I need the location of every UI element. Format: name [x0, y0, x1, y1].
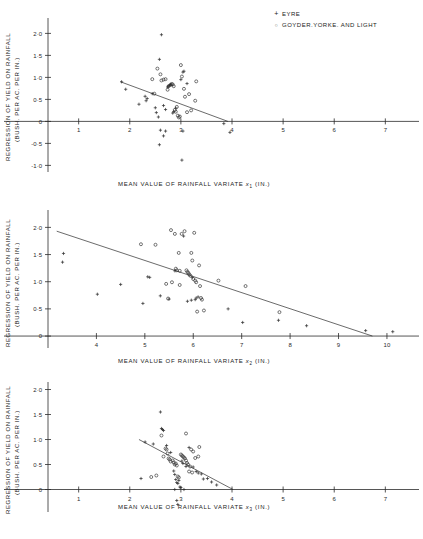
y-axis-label-3-units: (BUSH. PER AC. PER IN.)	[13, 402, 21, 504]
series-eyre-points	[139, 410, 218, 506]
svg-text:7: 7	[384, 127, 388, 133]
svg-text:1·0: 1·0	[33, 75, 42, 81]
svg-text:2·0: 2·0	[33, 225, 42, 231]
svg-text:1·0: 1·0	[33, 437, 42, 443]
svg-text:-1·0: -1·0	[31, 163, 42, 169]
svg-text:2·0: 2·0	[33, 31, 42, 37]
series-goyder-points	[151, 64, 198, 119]
svg-text:3: 3	[179, 496, 183, 502]
svg-text:6: 6	[333, 496, 337, 502]
svg-text:2·0: 2·0	[33, 387, 42, 393]
series-eyre-points	[120, 33, 232, 162]
series-goyder-points	[150, 432, 201, 479]
svg-text:5: 5	[281, 127, 285, 133]
svg-text:1: 1	[77, 127, 81, 133]
series-goyder-points	[139, 229, 280, 314]
x-axis-label-2: MEAN VALUE OF RAINFALL VARIATE x2 (IN.)	[118, 358, 270, 366]
scatter-plot-1: 1234567-1·0-0·500·51·01·52·0	[0, 0, 423, 196]
scatter-plot-3: 123456700·51·01·52·0	[0, 372, 423, 539]
svg-text:5: 5	[281, 496, 285, 502]
svg-text:1·5: 1·5	[33, 252, 42, 258]
svg-text:10: 10	[384, 342, 391, 348]
panel-3: 123456700·51·01·52·0 REGRESSION OF YIELD…	[0, 372, 423, 539]
svg-text:8: 8	[288, 342, 292, 348]
svg-text:9: 9	[337, 342, 341, 348]
svg-text:4: 4	[230, 496, 234, 502]
figure-container: + EYRE ○ GOYDER.YORKE. AND LIGHT 1234567…	[0, 0, 423, 539]
svg-text:1·0: 1·0	[33, 279, 42, 285]
svg-text:5: 5	[143, 342, 147, 348]
x-axis-label-3: MEAN VALUE OF RAINFALL VARIATE x3 (IN.)	[118, 504, 270, 512]
y-axis-label-1: REGRESSION OF YIELD ON RAINFALL	[4, 22, 12, 172]
svg-text:4: 4	[95, 342, 99, 348]
svg-text:0·5: 0·5	[33, 306, 42, 312]
svg-text:2: 2	[128, 496, 132, 502]
svg-text:1: 1	[77, 496, 81, 502]
svg-text:6: 6	[192, 342, 196, 348]
panel-1: 1234567-1·0-0·500·51·01·52·0 REGRESSION …	[0, 0, 423, 196]
svg-text:7: 7	[240, 342, 244, 348]
y-axis-label-2: REGRESSION OF YIELD ON RAINFALL	[4, 218, 12, 348]
y-axis-label-1-units: (BUSH. PER AC. PER IN.)	[13, 40, 21, 160]
y-axis-label-2-units: (BUSH. PER AC. PER IN.)	[13, 232, 21, 337]
svg-text:1·5: 1·5	[33, 53, 42, 59]
svg-text:6: 6	[333, 127, 337, 133]
svg-text:1·5: 1·5	[33, 412, 42, 418]
scatter-plot-2: 4567891000·51·01·52·0	[0, 196, 423, 372]
svg-text:2: 2	[128, 127, 132, 133]
svg-text:0·5: 0·5	[33, 97, 42, 103]
svg-text:7: 7	[384, 496, 388, 502]
x-axis-label-1: MEAN VALUE OF RAINFALL VARIATE x1 (IN.)	[118, 181, 270, 189]
y-axis-label-3: REGRESSION OF YIELD ON RAINFALL	[4, 386, 12, 514]
panel-2: 4567891000·51·01·52·0 REGRESSION OF YIEL…	[0, 196, 423, 372]
svg-text:0·5: 0·5	[33, 462, 42, 468]
svg-text:-0·5: -0·5	[31, 141, 42, 147]
